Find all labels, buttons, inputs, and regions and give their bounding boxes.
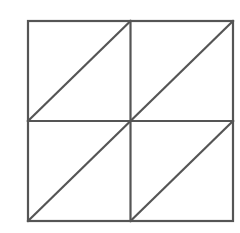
cell-diagonal bbox=[28, 21, 131, 121]
cell-diagonal bbox=[131, 121, 234, 221]
grid-diagram bbox=[0, 0, 240, 233]
grid-shapes bbox=[28, 21, 233, 221]
cell-diagonal bbox=[131, 21, 234, 121]
cell-diagonal bbox=[28, 121, 131, 221]
